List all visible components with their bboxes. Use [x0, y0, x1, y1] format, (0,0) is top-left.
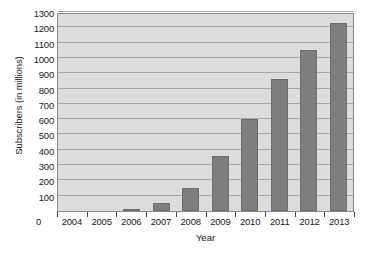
bar [153, 203, 170, 211]
bar-slot [147, 14, 177, 211]
x-axis-tick-label: 2007 [146, 216, 176, 227]
bar-slot [58, 14, 88, 211]
y-axis-tick-label: 900 [24, 69, 54, 80]
bar [300, 50, 317, 211]
bar-slot [324, 14, 354, 211]
bar-slot [206, 14, 236, 211]
y-axis-tick-label: 1100 [24, 38, 54, 49]
bar-series [58, 14, 353, 211]
x-axis-tick-label: 2008 [176, 216, 206, 227]
y-axis-tick-label: 500 [24, 130, 54, 141]
x-axis-tick-label: 2011 [265, 216, 295, 227]
y-axis-tick-label: 400 [24, 145, 54, 156]
y-axis-tick-label: 800 [24, 84, 54, 95]
plot-area [57, 13, 354, 212]
x-axis-tick-label: 2009 [206, 216, 236, 227]
bar-slot [88, 14, 118, 211]
bar [123, 209, 140, 211]
bar [212, 156, 229, 211]
bar-chart-figure: Subscribers (in millions) 10020030040050… [0, 0, 369, 255]
bar-slot [265, 14, 295, 211]
bar-slot [176, 14, 206, 211]
x-axis-tick-label: 2012 [295, 216, 325, 227]
y-axis-tick-label: 100 [24, 191, 54, 202]
bar [241, 119, 258, 211]
y-axis-tick-label: 1200 [24, 23, 54, 34]
y-axis-tick-label: 700 [24, 99, 54, 110]
bar-slot [117, 14, 147, 211]
x-axis-tick-label: 2013 [324, 216, 354, 227]
gridline [58, 11, 353, 12]
y-axis-tick-label: 1000 [24, 53, 54, 64]
x-axis-tick-label: 2004 [57, 216, 87, 227]
y-axis-title: Subscribers (in millions) [13, 26, 24, 186]
x-axis-tick-labels: 2004200520062007200820092010201120122013 [57, 216, 354, 227]
x-axis-tick-label: 2006 [116, 216, 146, 227]
x-axis-tick-mark [354, 212, 355, 217]
y-axis-tick-label: 200 [24, 176, 54, 187]
y-axis-tick-label: 300 [24, 161, 54, 172]
bar-slot [294, 14, 324, 211]
y-axis-zero-label: 0 [36, 216, 41, 227]
x-axis-tick-label: 2010 [235, 216, 265, 227]
bar [271, 79, 288, 211]
bar [182, 188, 199, 211]
x-axis-tick-label: 2005 [87, 216, 117, 227]
y-axis-tick-label: 1300 [24, 8, 54, 19]
bar-slot [235, 14, 265, 211]
bar [330, 23, 347, 211]
y-axis-tick-label: 600 [24, 115, 54, 126]
x-axis-title: Year [57, 232, 354, 243]
